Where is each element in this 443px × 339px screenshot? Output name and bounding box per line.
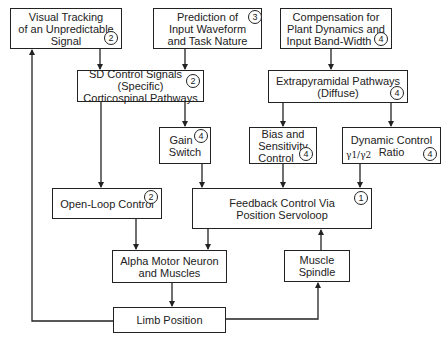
gamma-ratio-label: γ1/γ2 bbox=[346, 149, 371, 161]
node-dynamic-control: Dynamic Control Ratio γ1/γ2 4 bbox=[342, 127, 441, 164]
node-text: Switch bbox=[169, 146, 201, 158]
level-badge: 4 bbox=[194, 129, 208, 143]
node-text: Input Band-Width bbox=[287, 35, 386, 47]
level-badge: 4 bbox=[390, 86, 404, 100]
node-text: Signal bbox=[51, 35, 82, 47]
node-limb-position: Limb Position bbox=[113, 307, 226, 333]
node-text: Visual Tracking bbox=[29, 11, 103, 23]
node-text: and Task Nature bbox=[168, 35, 248, 47]
node-text: Plant Dynamics and bbox=[287, 23, 385, 35]
node-bias-sensitivity: Bias and Sensitivity Control 4 bbox=[249, 127, 317, 164]
level-badge: 4 bbox=[423, 147, 437, 161]
connector-layer bbox=[0, 0, 443, 339]
node-text: (Diffuse) bbox=[317, 87, 358, 99]
level-badge: 2 bbox=[186, 74, 200, 88]
level-badge: 3 bbox=[248, 10, 262, 24]
node-visual-tracking: Visual Tracking of an Unpredictable Sign… bbox=[10, 8, 122, 49]
node-text: Corticospinal Pathways bbox=[83, 92, 197, 104]
node-text: Alpha Motor Neuron bbox=[120, 255, 218, 267]
level-badge: 4 bbox=[299, 147, 313, 161]
node-sd-control: SD Control Signals (Specific) Corticospi… bbox=[77, 70, 204, 102]
node-alpha-motor: Alpha Motor Neuron and Muscles bbox=[112, 250, 227, 283]
node-text: Input Waveform bbox=[169, 23, 246, 35]
level-badge: 4 bbox=[374, 32, 388, 46]
node-text: and Muscles bbox=[139, 267, 201, 279]
node-extrapyramidal: Extrapyramidal Pathways (Diffuse) 4 bbox=[268, 70, 408, 103]
level-badge: 1 bbox=[354, 191, 368, 205]
node-text: SD Control Signals bbox=[89, 68, 192, 80]
node-text: Dynamic Control bbox=[351, 134, 432, 146]
node-feedback: Feedback Control Via Position Servoloop … bbox=[192, 188, 372, 229]
node-text: Compensation for bbox=[293, 11, 380, 23]
node-text: Limb Position bbox=[136, 314, 202, 326]
node-text: Ratio bbox=[379, 146, 405, 158]
node-text: (Specific) bbox=[118, 80, 164, 92]
node-text: of an Unpredictable bbox=[18, 23, 113, 35]
node-text: Prediction of bbox=[177, 11, 238, 23]
node-prediction: Prediction of Input Waveform and Task Na… bbox=[153, 8, 262, 49]
node-text: Bias and bbox=[262, 128, 305, 140]
node-compensation: Compensation for Plant Dynamics and Inpu… bbox=[280, 8, 392, 49]
node-muscle-spindle: Muscle Spindle bbox=[284, 250, 350, 282]
node-text: Position Servoloop bbox=[236, 209, 328, 221]
level-badge: 2 bbox=[104, 31, 118, 45]
node-open-loop: Open-Loop Control 2 bbox=[52, 188, 162, 219]
node-text: Feedback Control Via bbox=[229, 197, 335, 209]
node-text: Open-Loop Control bbox=[60, 198, 154, 210]
node-text: Extrapyramidal Pathways bbox=[276, 75, 400, 87]
node-text: Muscle bbox=[300, 254, 335, 266]
level-badge: 2 bbox=[144, 190, 158, 204]
node-gain-switch: Gain Switch 4 bbox=[159, 127, 211, 164]
edge-limb-to-spindle bbox=[226, 283, 318, 319]
node-text: Spindle bbox=[299, 266, 336, 278]
